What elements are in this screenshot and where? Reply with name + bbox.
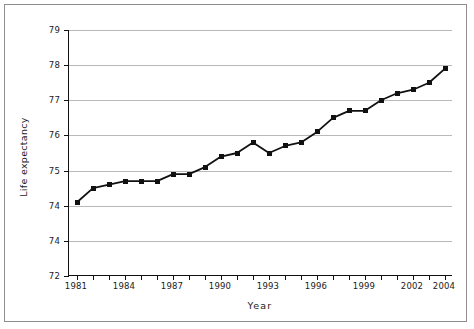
y-axis-tick (64, 276, 69, 277)
x-axis-tick-label: 1999 (344, 282, 384, 291)
x-axis-tick-label: 1981 (56, 282, 96, 291)
x-axis-tick-label: 1984 (104, 282, 144, 291)
data-point-marker (283, 143, 288, 148)
y-axis-tick-label: 74 (32, 202, 60, 211)
y-axis-tick-label: 72 (32, 272, 60, 281)
data-point-marker (427, 80, 432, 85)
x-axis-tick-label: 1987 (152, 282, 192, 291)
x-axis-tick-label: 1996 (296, 282, 336, 291)
data-point-marker (411, 87, 416, 92)
data-point-marker (251, 140, 256, 145)
data-point-marker (347, 108, 352, 113)
x-axis-tick-label: 2004 (424, 282, 464, 291)
data-point-marker (379, 98, 384, 103)
x-axis-title: Year (68, 300, 452, 311)
y-axis-tick-label: 77 (32, 96, 60, 105)
y-axis-tick-label: 74 (32, 237, 60, 246)
y-axis-title-text: Life expectancy (18, 92, 29, 222)
plot-area (69, 30, 452, 275)
data-point-marker (155, 179, 160, 184)
data-point-marker (123, 179, 128, 184)
data-point-marker (91, 186, 96, 191)
y-axis-tick-label: 79 (32, 26, 60, 35)
data-point-marker (267, 151, 272, 156)
data-point-marker (75, 200, 80, 205)
data-point-marker (203, 165, 208, 170)
x-axis-tick-label: 1990 (200, 282, 240, 291)
y-axis-tick-label: 78 (32, 61, 60, 70)
x-axis-tick-label: 1993 (248, 282, 288, 291)
series-line (69, 30, 453, 276)
y-axis-tick-label: 75 (32, 167, 60, 176)
data-point-marker (443, 66, 448, 71)
data-point-marker (235, 151, 240, 156)
data-point-marker (187, 172, 192, 177)
data-point-marker (363, 108, 368, 113)
y-axis-tick-label: 76 (32, 131, 60, 140)
y-axis-title: Life expectancy (18, 0, 29, 92)
data-point-marker (395, 91, 400, 96)
data-point-marker (299, 140, 304, 145)
data-point-marker (315, 129, 320, 134)
data-point-marker (171, 172, 176, 177)
data-point-marker (139, 179, 144, 184)
data-point-marker (107, 182, 112, 187)
plot-frame (68, 30, 452, 276)
data-point-marker (331, 115, 336, 120)
data-point-marker (219, 154, 224, 159)
line-chart: Life expectancy 7978777675747472 1981198… (0, 0, 474, 329)
